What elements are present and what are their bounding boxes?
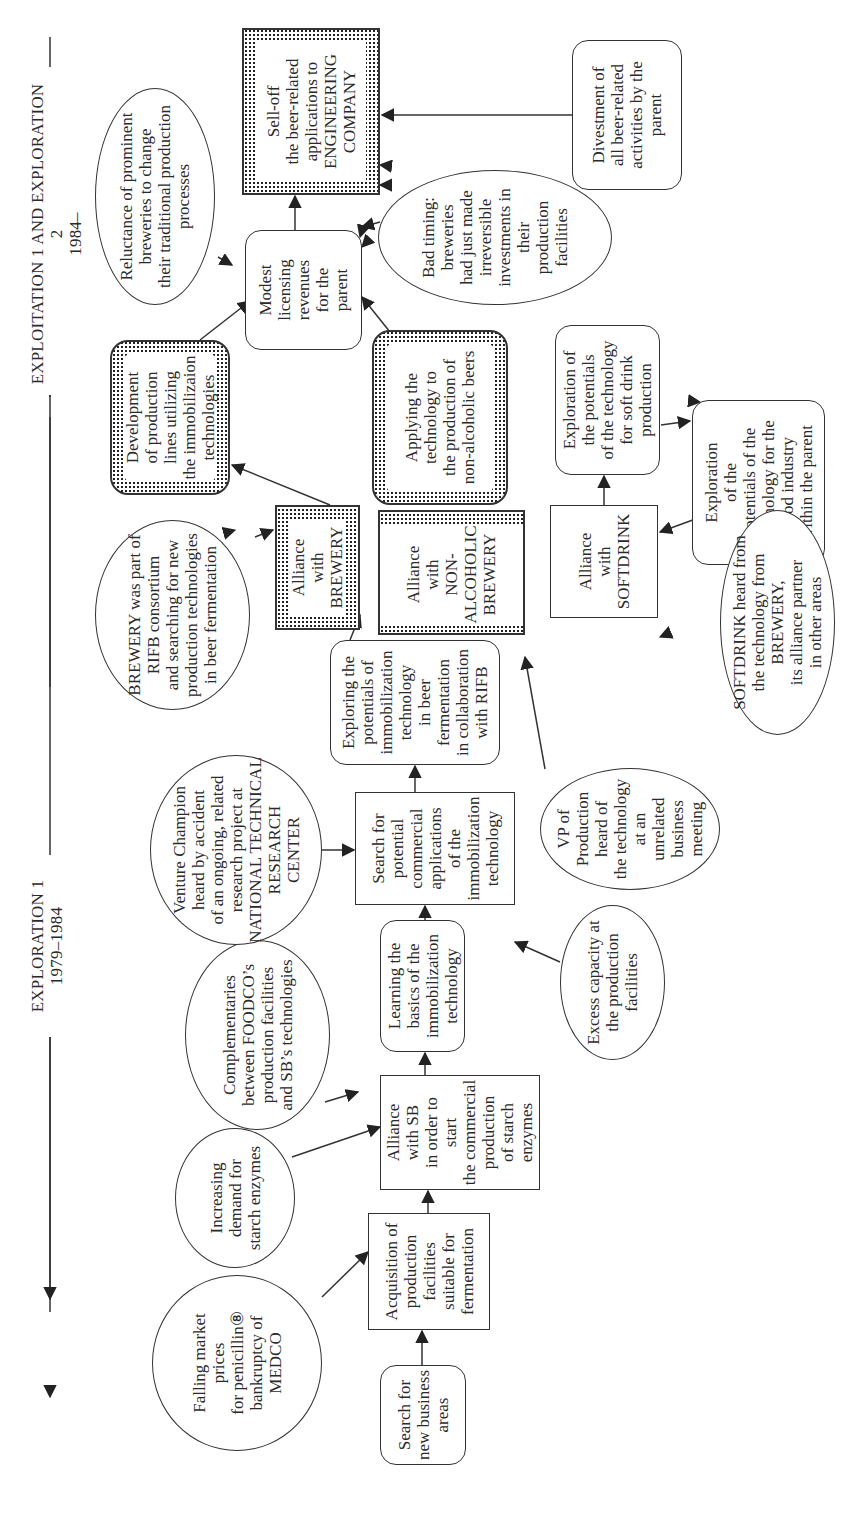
node-text: Development of production lines utilizin… <box>123 355 218 479</box>
node-text: Modest licensing revenues for the parent <box>256 259 351 320</box>
node-text: Alliance with BREWERY <box>289 526 346 608</box>
node-alliance-sb: Alliance with SB in order to start the c… <box>380 1075 540 1190</box>
node-alliance-softdrink: Alliance with SOFTDRINK <box>550 505 658 618</box>
node-search-potential: Search for potential commercial applicat… <box>355 792 515 905</box>
factor-increasing-demand: Increasing demand for starch enzymes <box>175 1128 295 1268</box>
phase1-title: EXPLORATION 1 <box>28 861 47 1031</box>
node-text: Applying the technology to the productio… <box>402 351 478 485</box>
phase2-title: EXPLOITATION 1 AND EXPLORATION 2 <box>28 79 66 389</box>
factor-text: Excess capacity at the production facili… <box>584 920 641 1045</box>
node-text: Alliance with NON- ALCOHOLIC BREWERY <box>404 525 499 623</box>
node-text: Acquisition of production facilities sui… <box>382 1223 477 1321</box>
factor-text: Falling market prices for penicillin⑧ ba… <box>190 1311 285 1414</box>
factor-softdrink-heard: SOFTDRINK heard from the technology from… <box>720 510 835 735</box>
factor-text: Increasing demand for starch enzymes <box>207 1146 264 1250</box>
node-learning-basics: Learning the basics of the immobilizatio… <box>380 920 465 1052</box>
node-search-new-business: Search for new business areas <box>380 1365 466 1465</box>
node-alliance-nonalcoholic: Alliance with NON- ALCOHOLIC BREWERY <box>378 510 525 635</box>
factor-vp-production: VP of Production heard of the technology… <box>540 768 720 890</box>
node-text: Alliance with SB in order to start the c… <box>384 1080 536 1185</box>
factor-reluctance: Reluctance of prominent breweries to cha… <box>95 88 215 305</box>
node-exploring-rifb: Exploring the potentials of immobilizati… <box>330 640 500 765</box>
node-text: Alliance with SOFTDRINK <box>576 514 633 609</box>
node-selloff: Sell-off the beer-related applications t… <box>242 28 380 195</box>
node-text: Divestment of all beer-related activitie… <box>589 61 665 169</box>
factor-text: Bad timing: breweries had just made irre… <box>419 188 571 287</box>
factor-complementaries: Complementaries between FOODCO’s product… <box>185 940 330 1130</box>
node-alliance-brewery: Alliance with BREWERY <box>275 505 360 630</box>
phase2-years: 1984– <box>66 79 85 389</box>
node-text: Exploration of the potentials of the tec… <box>560 341 655 460</box>
factor-text: Reluctance of prominent breweries to cha… <box>117 105 193 288</box>
node-development-lines: Development of production lines utilizin… <box>110 340 230 495</box>
factor-text: Complementaries between FOODCO’s product… <box>220 959 296 1110</box>
factor-text: Venture Champion heard by accident of an… <box>170 757 303 943</box>
factor-bad-timing: Bad timing: breweries had just made irre… <box>378 170 612 305</box>
node-text: Sell-off the beer-related applications t… <box>264 54 359 169</box>
diagram-canvas: EXPLORATION 1 1979–1984 EXPLOITATION 1 A… <box>0 0 842 1527</box>
factor-venture-champion: Venture Champion heard by accident of an… <box>150 755 322 945</box>
node-text: Search for new business areas <box>395 1370 452 1460</box>
node-modest-licensing: Modest licensing revenues for the parent <box>245 230 362 350</box>
phase-label-exploitation-exploration-2: EXPLOITATION 1 AND EXPLORATION 2 1984– <box>28 73 85 395</box>
node-applying-nonalcoholic: Applying the technology to the productio… <box>372 330 508 505</box>
factor-text: VP of Production heard of the technology… <box>554 779 706 880</box>
factor-falling-prices: Falling market prices for penicillin⑧ ba… <box>152 1275 322 1451</box>
node-exploration-softdrink: Exploration of the potentials of the tec… <box>555 325 660 475</box>
phase-label-exploration-1: EXPLORATION 1 1979–1984 <box>28 855 66 1037</box>
node-acquisition: Acquisition of production facilities sui… <box>368 1213 490 1330</box>
factor-text: SOFTDRINK heard from the technology from… <box>730 511 825 734</box>
node-divestment: Divestment of all beer-related activitie… <box>572 40 682 190</box>
factor-text: BREWERY was part of RIFB consortium and … <box>125 533 220 697</box>
factor-brewery-rifb: BREWERY was part of RIFB consortium and … <box>95 520 250 710</box>
phase1-years: 1979–1984 <box>47 861 66 1031</box>
node-text: Learning the basics of the immobilizatio… <box>385 934 461 1038</box>
factor-excess-capacity: Excess capacity at the production facili… <box>560 905 665 1060</box>
node-text: Search for potential commercial applicat… <box>369 797 502 901</box>
node-text: Exploring the potentials of immobilizati… <box>339 649 491 756</box>
